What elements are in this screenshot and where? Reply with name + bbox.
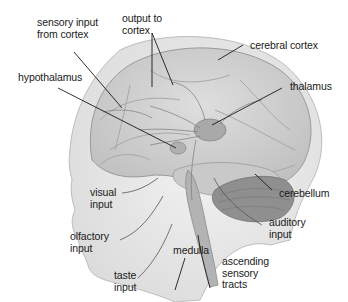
label-medulla: medulla — [173, 245, 209, 257]
label-cerebral-cortex: cerebral cortex — [250, 40, 318, 52]
label-output-to-cortex: output to cortex — [122, 13, 162, 36]
label-ascending-sensory-tracts: ascending sensory tracts — [222, 256, 269, 291]
label-taste-input: taste input — [114, 270, 136, 293]
label-thalamus: thalamus — [290, 81, 332, 93]
label-hypothalamus: hypothalamus — [18, 72, 82, 84]
label-visual-input: visual input — [90, 187, 116, 210]
label-auditory-input: auditory input — [269, 217, 306, 240]
label-cerebellum: cerebellum — [279, 188, 329, 200]
label-sensory-input-from-cortex: sensory input from cortex — [37, 17, 98, 40]
brain-diagram: sensory input from cortex output to cort… — [0, 0, 348, 302]
label-olfactory-input: olfactory input — [70, 231, 109, 254]
hypothalamus-shape — [170, 142, 186, 154]
